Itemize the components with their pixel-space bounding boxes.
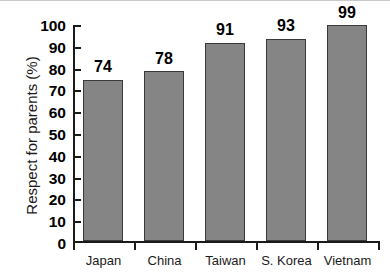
bar-value-label: 99 — [327, 5, 367, 21]
y-tick-label: 30 — [32, 171, 66, 187]
y-axis-line — [73, 25, 75, 243]
y-tick-label: 90 — [32, 40, 66, 56]
x-tick-mark — [317, 243, 319, 250]
y-tick-mark — [75, 199, 81, 201]
y-tick-label: 60 — [32, 105, 66, 121]
bar-value-label: 93 — [266, 18, 306, 34]
bar-value-label: 91 — [205, 22, 245, 38]
y-tick-label: 100 — [32, 18, 66, 34]
y-tick-mark — [75, 25, 81, 27]
x-category-label: Taiwan — [195, 254, 256, 267]
x-tick-mark — [378, 243, 380, 250]
bar-value-label: 78 — [144, 51, 184, 67]
y-tick-label: 0 — [32, 236, 66, 252]
x-tick-mark — [73, 243, 75, 250]
x-tick-mark — [195, 243, 197, 250]
y-tick-mark — [75, 112, 81, 114]
y-tick-mark — [75, 90, 81, 92]
bar-vietnam — [327, 25, 367, 241]
bar-chart: Respect for parents (%) 100 90 80 70 60 … — [0, 0, 390, 280]
x-category-label: Japan — [73, 254, 134, 267]
y-tick-label: 10 — [32, 214, 66, 230]
y-tick-label: 80 — [32, 62, 66, 78]
x-tick-mark — [256, 243, 258, 250]
x-axis-line — [73, 241, 380, 243]
y-tick-mark — [75, 47, 81, 49]
y-tick-label: 20 — [32, 192, 66, 208]
bar-taiwan — [205, 43, 245, 241]
y-tick-mark — [75, 221, 81, 223]
x-tick-mark — [134, 243, 136, 250]
y-tick-label: 50 — [32, 127, 66, 143]
y-tick-mark — [75, 69, 81, 71]
y-axis-tick-labels: 100 90 80 70 60 50 40 30 20 10 0 — [30, 0, 66, 280]
bar-value-label: 74 — [83, 59, 123, 75]
bar-china — [144, 71, 184, 241]
y-tick-label: 40 — [32, 149, 66, 165]
y-tick-label: 70 — [32, 83, 66, 99]
x-category-label: S. Korea — [256, 254, 317, 267]
bar-s-korea — [266, 39, 306, 242]
y-tick-mark — [75, 134, 81, 136]
y-tick-mark — [75, 156, 81, 158]
x-category-label: Vietnam — [317, 254, 378, 267]
y-tick-mark — [75, 178, 81, 180]
x-category-label: China — [134, 254, 195, 267]
bar-japan — [83, 80, 123, 241]
